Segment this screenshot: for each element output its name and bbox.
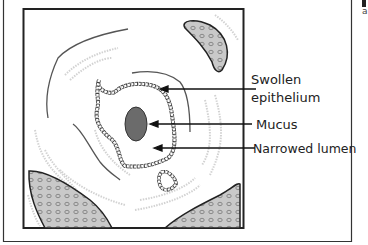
label-swollen-line2: epithelium [251,90,320,105]
label-narrowed-lumen: Narrowed lumen [253,141,356,156]
side-text-letter: a [362,6,368,16]
mucus-blob [125,107,147,141]
label-swollen-line1: Swollen [251,72,301,87]
label-mucus: Mucus [256,117,298,132]
